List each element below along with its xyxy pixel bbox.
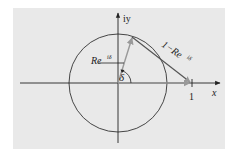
one-label: 1	[189, 91, 194, 102]
vector-r-label: Re iδ	[90, 54, 112, 66]
svg-text:iδ: iδ	[186, 54, 193, 62]
vector-diff	[132, 37, 190, 82]
svg-text:Re: Re	[90, 55, 102, 66]
angle-label: δ	[119, 71, 125, 83]
y-axis-label: iy	[123, 13, 131, 24]
svg-text:1−Re: 1−Re	[160, 39, 185, 61]
svg-text:iδ: iδ	[107, 54, 112, 60]
x-axis-label: x	[211, 87, 217, 98]
complex-plane-diagram: iy x 1 δ Re iδ 1−Re iδ	[0, 0, 236, 159]
